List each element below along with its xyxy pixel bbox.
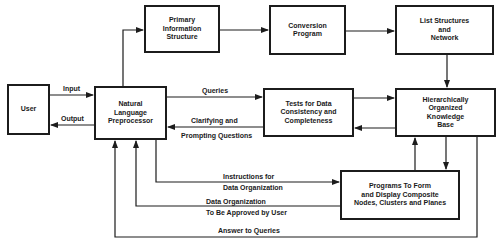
list-line-2: and <box>420 26 469 35</box>
queries-label: Queries <box>202 87 228 95</box>
primary-line-2: Information <box>163 25 202 34</box>
list-line-1: List Structures <box>420 17 469 26</box>
conversion-program-box: Conversion Program <box>269 5 346 55</box>
edge-nlp-primary <box>123 30 143 86</box>
hokb-line-2: Organized <box>423 104 469 113</box>
nlp-line-2: Language <box>108 109 153 118</box>
user-label: User <box>21 105 37 114</box>
input-label: Input <box>63 85 80 93</box>
hokb-line-4: Base <box>423 121 469 130</box>
programs-composite-nodes-box: Programs To Form and Display Composite N… <box>340 170 460 220</box>
output-label: Output <box>61 115 84 123</box>
answer-label: Answer to Queries <box>218 227 280 235</box>
conversion-line-2: Program <box>288 30 327 39</box>
clarifying-label-1: Clarifying and <box>191 117 238 125</box>
hokb-line-1: Hierarchically <box>423 96 469 105</box>
primary-line-1: Primary <box>163 16 202 25</box>
approval-label-2: To Be Approved by User <box>206 209 287 217</box>
nlp-line-3: Preprocessor <box>108 117 153 126</box>
list-line-3: Network <box>420 34 469 43</box>
programs-line-2: and Display Composite <box>354 191 446 200</box>
clarifying-label-2: Prompting Questions <box>181 132 252 140</box>
instructions-label-2: Data Organization <box>223 184 283 192</box>
conversion-line-1: Conversion <box>288 22 327 31</box>
natural-language-preprocessor-box: Natural Language Preprocessor <box>94 86 167 140</box>
approval-label-1: Data Organization <box>206 198 266 206</box>
hokb-line-3: Knowledge <box>423 113 469 122</box>
programs-line-3: Nodes, Clusters and Planes <box>354 199 446 208</box>
tests-line-1: Tests for Data <box>280 100 336 109</box>
tests-data-consistency-box: Tests for Data Consistency and Completen… <box>263 88 354 137</box>
user-box: User <box>7 84 50 135</box>
instructions-label-1: Instructions for <box>223 173 274 181</box>
primary-information-structure-box: Primary Information Structure <box>144 5 220 53</box>
programs-line-1: Programs To Form <box>354 182 446 191</box>
tests-line-2: Consistency and <box>280 108 336 117</box>
tests-line-3: Completeness <box>280 117 336 126</box>
primary-line-3: Structure <box>163 33 202 42</box>
list-structures-box: List Structures and Network <box>395 5 494 55</box>
hierarchical-knowledge-base-box: Hierarchically Organized Knowledge Base <box>395 88 496 137</box>
nlp-line-1: Natural <box>108 100 153 109</box>
